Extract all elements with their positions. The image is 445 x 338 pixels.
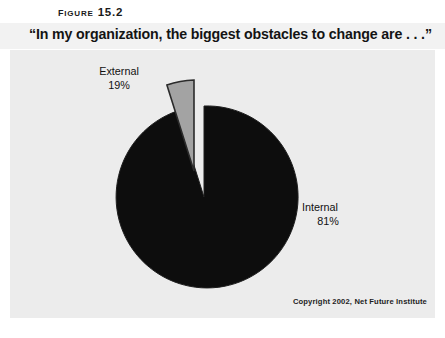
pie-label-external: External 19% (72, 64, 166, 92)
pie-label-internal-name: Internal (302, 200, 396, 214)
pie-label-external-name: External (72, 64, 166, 78)
pie-label-internal: Internal 81% (302, 200, 396, 228)
figure-number-caption: Figure 15.2 (58, 4, 123, 19)
figure-container: Figure 15.2 “In my organization, the big… (0, 0, 445, 338)
pie-label-external-value: 19% (72, 78, 166, 92)
copyright-notice: Copyright 2002, Net Future Institute (293, 297, 427, 306)
pie-label-internal-value: 81% (302, 214, 354, 228)
page-title: “In my organization, the biggest obstacl… (29, 26, 429, 42)
